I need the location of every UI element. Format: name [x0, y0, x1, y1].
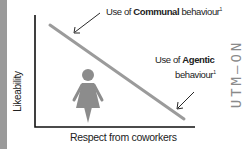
trend-line	[50, 25, 184, 119]
agentic-prefix: Use of	[155, 54, 182, 65]
communal-arrow-icon	[74, 13, 100, 33]
agentic-label: Use of Agentic	[155, 54, 214, 65]
woman-icon	[74, 69, 102, 123]
y-axis-label: Likeability	[12, 63, 23, 121]
side-vertical-text: UTM—ON	[228, 24, 244, 124]
agentic-arrow-icon	[177, 92, 194, 109]
communal-bold: Communal	[133, 6, 179, 17]
communal-suffix: behaviour	[179, 6, 219, 17]
communal-footnote: 1	[220, 6, 222, 12]
agentic-line2: behaviour	[175, 69, 213, 80]
agentic-bold: Agentic	[182, 54, 214, 65]
x-axis-label: Respect from coworkers	[70, 131, 177, 143]
agentic-footnote: 1	[213, 69, 215, 75]
agentic-label-line2: behaviour1	[175, 69, 216, 80]
communal-prefix: Use of	[106, 6, 133, 17]
communal-label: Use of Communal behaviour1	[106, 6, 222, 17]
